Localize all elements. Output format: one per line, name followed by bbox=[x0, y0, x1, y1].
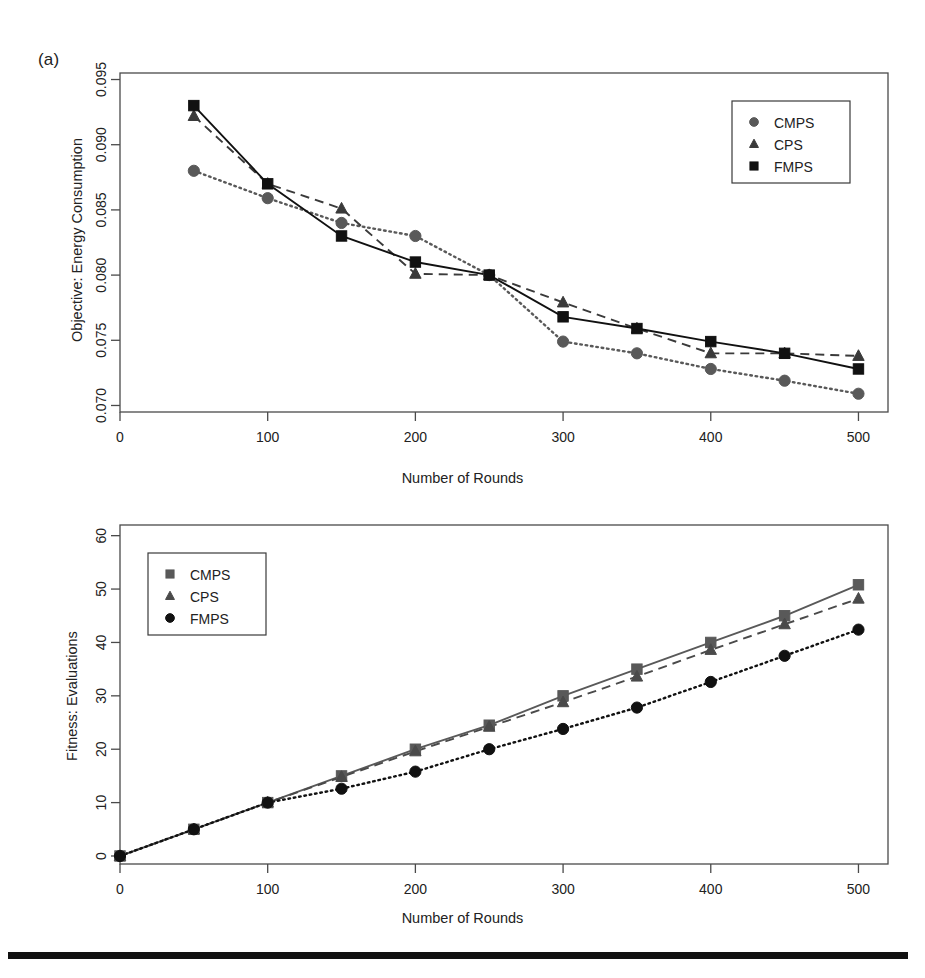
marker-square bbox=[262, 179, 272, 189]
plot-area-a: 01002003004005000.0700.0750.0800.0850.09… bbox=[0, 0, 925, 500]
marker-square bbox=[189, 100, 199, 110]
y-tick-label: 0.090 bbox=[93, 127, 109, 162]
series-line-cmps bbox=[194, 171, 859, 394]
x-tick-label: 0 bbox=[116, 881, 124, 897]
y-tick-label: 0 bbox=[93, 852, 109, 860]
x-tick-label: 0 bbox=[116, 429, 124, 445]
marker-square bbox=[853, 580, 863, 590]
marker-circle bbox=[410, 766, 421, 777]
marker-square bbox=[706, 336, 716, 346]
marker-triangle bbox=[853, 592, 864, 603]
marker-square bbox=[484, 270, 494, 280]
marker-square bbox=[853, 364, 863, 374]
y-tick-label: 10 bbox=[93, 795, 109, 811]
marker-circle bbox=[336, 217, 347, 228]
marker-circle bbox=[750, 118, 759, 127]
marker-square bbox=[166, 570, 174, 578]
chart-panel-a: (a) Objective: Energy Consumption Number… bbox=[0, 0, 925, 500]
marker-circle bbox=[779, 375, 790, 386]
x-tick-label: 500 bbox=[847, 429, 871, 445]
marker-triangle bbox=[853, 350, 864, 361]
x-tick-label: 100 bbox=[256, 429, 280, 445]
x-tick-label: 300 bbox=[551, 881, 575, 897]
y-tick-label: 0.070 bbox=[93, 388, 109, 423]
series-line-fmps bbox=[120, 630, 858, 856]
marker-square bbox=[779, 348, 789, 358]
marker-circle bbox=[484, 744, 495, 755]
marker-circle bbox=[166, 614, 175, 623]
y-tick-label: 20 bbox=[93, 741, 109, 757]
marker-square bbox=[750, 162, 758, 170]
x-tick-label: 200 bbox=[404, 881, 428, 897]
marker-circle bbox=[114, 850, 125, 861]
legend-label-cmps: CMPS bbox=[190, 567, 230, 583]
footer-rule bbox=[8, 952, 908, 959]
marker-circle bbox=[188, 165, 199, 176]
marker-triangle bbox=[188, 110, 199, 121]
legend-label-cmps: CMPS bbox=[774, 115, 814, 131]
x-tick-label: 400 bbox=[699, 429, 723, 445]
x-tick-label: 200 bbox=[404, 429, 428, 445]
marker-triangle bbox=[336, 202, 347, 213]
y-tick-label: 30 bbox=[93, 688, 109, 704]
marker-circle bbox=[631, 702, 642, 713]
legend-label-cps: CPS bbox=[774, 137, 803, 153]
x-tick-label: 100 bbox=[256, 881, 280, 897]
y-tick-label: 0.080 bbox=[93, 257, 109, 292]
y-tick-label: 60 bbox=[93, 528, 109, 544]
marker-circle bbox=[705, 363, 716, 374]
y-tick-label: 50 bbox=[93, 581, 109, 597]
marker-circle bbox=[410, 230, 421, 241]
legend-label-cps: CPS bbox=[190, 589, 219, 605]
y-tick-label: 0.075 bbox=[93, 323, 109, 358]
marker-circle bbox=[853, 388, 864, 399]
marker-circle bbox=[188, 824, 199, 835]
marker-circle bbox=[557, 336, 568, 347]
marker-circle bbox=[853, 624, 864, 635]
y-tick-label: 0.095 bbox=[93, 62, 109, 97]
marker-circle bbox=[779, 650, 790, 661]
plot-area-b: 01002003004005000102030405060CMPSCPSFMPS bbox=[0, 488, 925, 938]
legend-label-fmps: FMPS bbox=[190, 611, 229, 627]
x-tick-label: 300 bbox=[551, 429, 575, 445]
marker-circle bbox=[631, 348, 642, 359]
marker-circle bbox=[262, 797, 273, 808]
x-tick-label: 400 bbox=[699, 881, 723, 897]
marker-circle bbox=[262, 193, 273, 204]
marker-circle bbox=[557, 723, 568, 734]
marker-circle bbox=[336, 783, 347, 794]
marker-circle bbox=[705, 676, 716, 687]
x-tick-label: 500 bbox=[847, 881, 871, 897]
legend-label-fmps: FMPS bbox=[774, 159, 813, 175]
y-tick-label: 0.085 bbox=[93, 192, 109, 227]
y-tick-label: 40 bbox=[93, 634, 109, 650]
marker-square bbox=[410, 257, 420, 267]
marker-square bbox=[558, 312, 568, 322]
marker-square bbox=[632, 323, 642, 333]
marker-square bbox=[336, 231, 346, 241]
chart-panel-b: Fitness: Evaluations Number of Rounds 01… bbox=[0, 488, 925, 938]
